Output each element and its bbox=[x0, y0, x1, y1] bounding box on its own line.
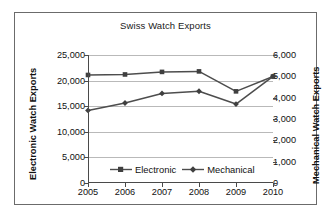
legend-label-mechanical: Mechanical bbox=[207, 164, 254, 175]
data-point-marker bbox=[122, 100, 128, 106]
series-line-electronic bbox=[88, 71, 273, 91]
right-tick-mark bbox=[273, 55, 277, 56]
right-tick-mark bbox=[273, 162, 277, 163]
legend-item-mechanical: Mechanical bbox=[182, 164, 254, 175]
right-tick-mark bbox=[273, 98, 277, 99]
left-tick-label: 10,000 bbox=[57, 127, 85, 137]
x-tick-label: 2008 bbox=[189, 187, 209, 197]
x-tick-label: 2006 bbox=[115, 187, 135, 197]
data-point-marker bbox=[86, 73, 91, 78]
legend-square-marker-icon bbox=[110, 165, 132, 174]
legend-diamond-marker-icon bbox=[182, 165, 204, 174]
data-point-marker bbox=[123, 72, 128, 77]
data-point-marker bbox=[85, 108, 91, 114]
legend-label-electronic: Electronic bbox=[135, 164, 176, 175]
x-tick-label: 2009 bbox=[226, 187, 246, 197]
left-tick-label: 25,000 bbox=[57, 50, 85, 60]
chart-frame: Swiss Watch Exports Electronic Watch Exp… bbox=[14, 12, 317, 205]
left-axis-title: Electronic Watch Exports bbox=[28, 68, 38, 180]
x-tick-label: 2007 bbox=[152, 187, 172, 197]
data-point-marker bbox=[196, 88, 202, 94]
series-line-mechanical bbox=[88, 76, 273, 110]
x-tick-label: 2005 bbox=[78, 187, 98, 197]
x-tick-label: 2010 bbox=[263, 187, 283, 197]
x-axis-tick-labels: 200520062007200820092010 bbox=[88, 187, 273, 203]
data-point-marker bbox=[160, 70, 165, 75]
right-tick-mark bbox=[273, 140, 277, 141]
right-tick-mark bbox=[273, 119, 277, 120]
data-point-marker bbox=[159, 91, 165, 97]
data-point-marker bbox=[234, 89, 239, 94]
left-tick-label: 5,000 bbox=[62, 152, 85, 162]
left-tick-label: 15,000 bbox=[57, 101, 85, 111]
left-axis-tick-labels: 05,00010,00015,00020,00025,000 bbox=[39, 13, 85, 204]
chart-legend: Electronic Mechanical bbox=[110, 161, 255, 177]
left-tick-label: 20,000 bbox=[57, 76, 85, 86]
right-axis-tick-labels: 01,0002,0003,0004,0005,0006,000 bbox=[273, 13, 315, 204]
data-point-marker bbox=[197, 69, 202, 74]
legend-item-electronic: Electronic bbox=[110, 164, 176, 175]
